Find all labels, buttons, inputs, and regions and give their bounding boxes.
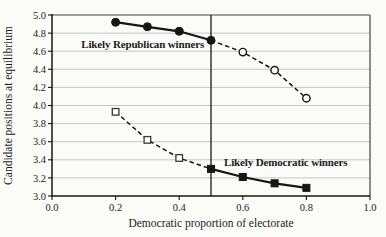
data-point-square-filled: [239, 173, 246, 180]
x-axis-title: Democratic proportion of electorate: [128, 217, 293, 230]
y-tick-label: 3.0: [33, 191, 46, 202]
y-axis-title: Candidate positions at equilibrium: [2, 26, 15, 185]
data-point-square-filled: [271, 180, 278, 187]
y-tick-label: 4.0: [33, 100, 46, 111]
data-point-circle-filled: [143, 23, 151, 31]
data-point-circle-open: [239, 48, 246, 55]
x-tick-label: 0.0: [45, 202, 58, 213]
y-tick-label: 3.4: [33, 154, 47, 165]
data-point-circle-open: [271, 67, 278, 74]
data-point-circle-open: [303, 95, 310, 102]
data-point-square-open: [176, 155, 183, 162]
y-tick-label: 3.6: [33, 136, 46, 147]
y-tick-label: 3.8: [33, 118, 46, 129]
equilibrium-positions-chart: 3.03.23.43.63.84.04.24.44.64.85.00.00.20…: [0, 0, 386, 237]
data-point-circle-filled: [112, 18, 120, 26]
annotation-likely-democratic-winners: Likely Democratic winners: [224, 156, 348, 168]
chart-figure: 3.03.23.43.63.84.04.24.44.64.85.00.00.20…: [0, 0, 386, 237]
y-tick-label: 4.2: [33, 82, 46, 93]
data-point-square-open: [144, 137, 151, 144]
y-tick-label: 4.8: [33, 28, 46, 39]
x-tick-label: 0.2: [109, 202, 122, 213]
x-tick-label: 0.4: [173, 202, 187, 213]
annotation-likely-republican-winners: Likely Republican winners: [81, 38, 205, 50]
y-tick-label: 3.2: [33, 173, 46, 184]
y-tick-label: 4.4: [33, 64, 47, 75]
x-tick-label: 0.8: [300, 202, 313, 213]
data-point-square-open: [112, 109, 119, 116]
series-1-line-dashed: [116, 112, 211, 169]
data-point-circle-filled: [207, 36, 215, 44]
data-point-square-filled: [208, 165, 215, 172]
y-tick-label: 5.0: [33, 10, 46, 21]
x-tick-label: 1.0: [363, 202, 376, 213]
data-point-square-filled: [303, 184, 310, 191]
x-tick-label: 0.6: [236, 202, 249, 213]
data-point-circle-filled: [175, 27, 183, 35]
y-tick-label: 4.6: [33, 46, 46, 57]
